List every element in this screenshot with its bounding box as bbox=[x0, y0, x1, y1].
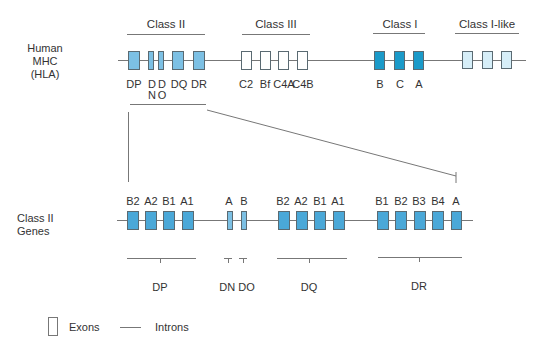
exon-dq-b1 bbox=[314, 211, 326, 230]
exon-label: A bbox=[452, 195, 459, 207]
exon-dp-b2 bbox=[127, 211, 139, 230]
exon-label: A bbox=[225, 195, 232, 207]
bracket-dn-tick bbox=[228, 258, 229, 263]
bracket-do-tick bbox=[243, 258, 244, 263]
legend-exon-icon bbox=[48, 317, 58, 336]
group-label-dp: DP bbox=[152, 281, 167, 293]
legend-intron-icon bbox=[120, 327, 141, 328]
bracket-dp-tick bbox=[160, 258, 161, 263]
exon-label: A1 bbox=[180, 195, 193, 207]
exon-dr-b4 bbox=[432, 211, 444, 230]
exon-dp-b1 bbox=[163, 211, 175, 230]
exon-label: B2 bbox=[394, 195, 407, 207]
bracket-dq bbox=[277, 258, 347, 259]
legend-introns-label: Introns bbox=[155, 321, 189, 333]
exon-label: B1 bbox=[313, 195, 326, 207]
exon-label: B1 bbox=[162, 195, 175, 207]
legend-exons-label: Exons bbox=[69, 321, 100, 333]
bracket-dr-tick bbox=[419, 257, 420, 262]
bracket-dp bbox=[127, 258, 196, 259]
expansion-diagonal-connector bbox=[0, 0, 539, 344]
exon-dr-b2 bbox=[395, 211, 407, 230]
exon-label: B4 bbox=[431, 195, 444, 207]
label-line: Genes bbox=[17, 225, 54, 238]
exon-label: A2 bbox=[144, 195, 157, 207]
exon-dr-b1 bbox=[377, 211, 389, 230]
exon-label: B1 bbox=[375, 195, 388, 207]
exon-label: B2 bbox=[126, 195, 139, 207]
bracket-dr bbox=[378, 257, 462, 258]
exon-do-b bbox=[241, 211, 247, 230]
exon-label: A1 bbox=[331, 195, 344, 207]
exon-label: B3 bbox=[412, 195, 425, 207]
exon-dq-a1 bbox=[333, 211, 345, 230]
exon-dr-b3 bbox=[414, 211, 426, 230]
group-label-dq: DQ bbox=[301, 281, 318, 293]
exon-label: A2 bbox=[294, 195, 307, 207]
group-label-dr: DR bbox=[411, 280, 427, 292]
exon-dr-a bbox=[451, 211, 462, 230]
exon-dq-a2 bbox=[296, 211, 308, 230]
exon-dp-a2 bbox=[145, 211, 157, 230]
exon-dq-b2 bbox=[278, 211, 290, 230]
exon-label: B2 bbox=[276, 195, 289, 207]
label-line: Class II bbox=[17, 212, 54, 225]
bracket-dq-tick bbox=[309, 258, 310, 263]
exon-label: B bbox=[240, 195, 247, 207]
group-label-dn-do: DN DO bbox=[219, 281, 254, 293]
exon-dn-a bbox=[227, 211, 233, 230]
exon-dp-a1 bbox=[182, 211, 194, 230]
class-ii-genes-label: Class II Genes bbox=[17, 212, 54, 238]
